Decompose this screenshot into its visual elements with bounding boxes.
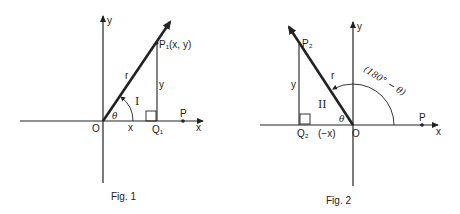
right-angle-marker bbox=[146, 111, 156, 121]
foot-q1-label: Q₁ bbox=[152, 124, 164, 135]
point-p2-label: P₂ bbox=[302, 38, 313, 49]
angle-theta-label: θ bbox=[339, 114, 345, 124]
figure-1: y x O P₁(x, y) Q₁ r y x θ I P Fig. 1 bbox=[20, 15, 203, 202]
opposite-label: y bbox=[291, 79, 296, 90]
quadrant-label: II bbox=[318, 98, 327, 111]
radius-label: r bbox=[125, 70, 129, 81]
x-axis-label: x bbox=[436, 126, 441, 137]
y-axis-label: y bbox=[357, 21, 362, 32]
opposite-label: y bbox=[159, 79, 164, 90]
foot-q2-label: Q₂ bbox=[297, 128, 309, 139]
figure-2: y x O P₂ Q₂ r y (−x) θ (180° − θ) II P F… bbox=[260, 21, 441, 206]
figure-caption: Fig. 2 bbox=[326, 195, 351, 206]
point-p-dot bbox=[420, 123, 424, 127]
origin-label: O bbox=[352, 128, 360, 139]
ref-point-label: P bbox=[180, 108, 187, 119]
radius-label: r bbox=[331, 70, 335, 81]
point-p-dot bbox=[181, 119, 185, 123]
angle-arc bbox=[121, 97, 133, 121]
angle-theta-label: θ bbox=[112, 111, 118, 121]
y-axis-label: y bbox=[107, 15, 112, 26]
figure-caption: Fig. 1 bbox=[111, 191, 136, 202]
angle-outer-label: (180° − θ) bbox=[362, 64, 408, 98]
right-angle-marker bbox=[300, 114, 310, 124]
quadrant-label: I bbox=[135, 95, 139, 108]
x-axis-label: x bbox=[196, 122, 201, 133]
origin-label: O bbox=[92, 123, 100, 134]
adjacent-label: (−x) bbox=[318, 128, 336, 139]
diagram-canvas: y x O P₁(x, y) Q₁ r y x θ I P Fig. 1 y x… bbox=[0, 0, 460, 214]
point-p1-label: P₁(x, y) bbox=[159, 39, 191, 50]
ref-point-label: P bbox=[419, 112, 426, 123]
adjacent-label: x bbox=[128, 122, 133, 133]
